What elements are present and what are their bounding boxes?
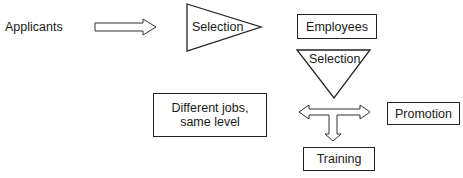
lateral-move-box: Different jobs, same level [153, 93, 267, 137]
training-box: Training [303, 147, 375, 171]
employees-label: Employees [306, 20, 368, 34]
internal-selection-label: Selection [309, 52, 360, 66]
promotion-box: Promotion [387, 102, 460, 125]
promotion-label: Promotion [395, 107, 452, 121]
employees-box: Employees [297, 14, 377, 39]
applicants-label: Applicants [5, 20, 63, 34]
training-label: Training [317, 152, 362, 166]
t-hollow-arrow [299, 105, 370, 141]
entry-selection-label: Selection [192, 20, 243, 34]
hollow-right-arrow [95, 19, 156, 35]
lateral-move-label: Different jobs, same level [157, 101, 263, 129]
